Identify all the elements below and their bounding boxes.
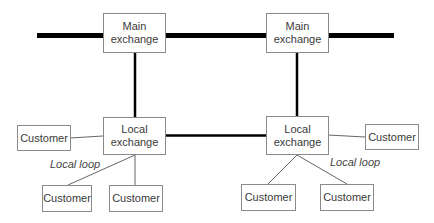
customer-label: Customer — [43, 192, 91, 205]
customer-right: Customer — [365, 124, 419, 150]
node-label: exchange — [274, 136, 322, 149]
customer-label: Customer — [112, 192, 160, 205]
customer-bottom-left-1: Customer — [42, 185, 92, 212]
local-loop-line — [70, 136, 103, 138]
main-exchange-left: Main exchange — [103, 13, 166, 53]
node-label: exchange — [111, 136, 159, 149]
local-loop-line — [268, 155, 297, 184]
node-label: Main — [111, 20, 159, 33]
customer-bottom-right-1: Customer — [241, 184, 296, 211]
customer-label: Customer — [323, 191, 371, 204]
customer-bottom-left-2: Customer — [109, 185, 163, 212]
customer-label: Customer — [368, 131, 416, 144]
node-label: Main — [274, 20, 322, 33]
main-exchange-right: Main exchange — [266, 13, 329, 53]
local-loop-line — [328, 135, 365, 137]
local-exchange-right: Local exchange — [266, 116, 329, 155]
customer-label: Customer — [245, 191, 293, 204]
local-loop-label-right: Local loop — [330, 156, 380, 168]
node-label: Local — [111, 123, 159, 136]
node-label: exchange — [111, 33, 159, 46]
local-exchange-left: Local exchange — [103, 117, 166, 155]
customer-label: Customer — [20, 132, 68, 145]
local-loop-label-left: Local loop — [50, 158, 100, 170]
customer-left: Customer — [17, 125, 71, 151]
customer-bottom-right-2: Customer — [320, 184, 374, 211]
node-label: exchange — [274, 33, 322, 46]
node-label: Local — [274, 123, 322, 136]
